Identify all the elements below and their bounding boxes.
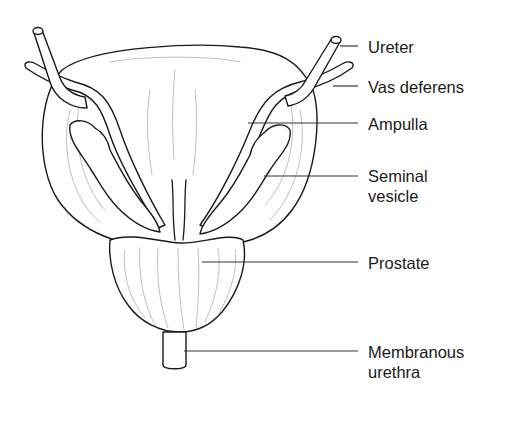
label-prostate: Prostate bbox=[368, 253, 429, 273]
label-membranous-urethra-line2: urethra bbox=[368, 362, 464, 382]
label-membranous-urethra-line1: Membranous bbox=[368, 342, 464, 362]
prostate-gland bbox=[110, 237, 245, 332]
anatomy-diagram: Ureter Vas deferens Ampulla Seminal vesi… bbox=[0, 0, 513, 421]
membranous-urethra-tube bbox=[163, 332, 186, 369]
label-ureter: Ureter bbox=[368, 37, 414, 57]
label-seminal-vesicle-line1: Seminal bbox=[368, 166, 428, 186]
label-seminal-vesicle-line2: vesicle bbox=[368, 186, 428, 206]
label-vas-deferens: Vas deferens bbox=[368, 77, 464, 97]
label-seminal-vesicle: Seminal vesicle bbox=[368, 166, 428, 206]
label-ampulla: Ampulla bbox=[368, 114, 428, 134]
label-membranous-urethra: Membranous urethra bbox=[368, 342, 464, 382]
